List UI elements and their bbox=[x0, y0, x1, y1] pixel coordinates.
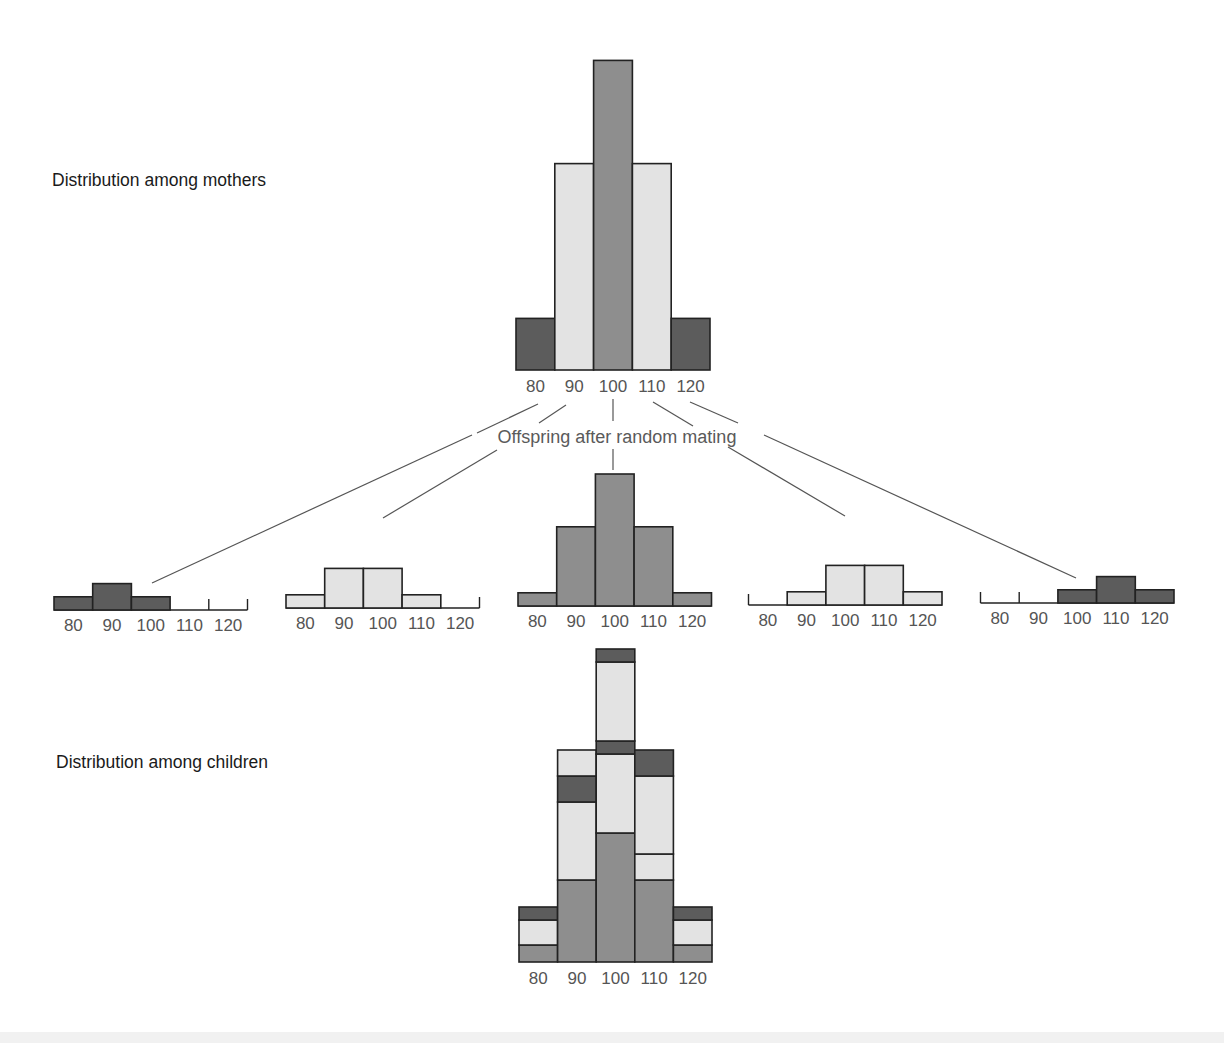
tick-label: 120 bbox=[908, 611, 936, 630]
bar-80 bbox=[518, 593, 557, 606]
bar-110 bbox=[632, 164, 671, 370]
bar-90 bbox=[787, 592, 826, 605]
offspring-histogram-100: 8090100110120 bbox=[518, 474, 712, 631]
inheritance-diagram: Offspring after random mating 8090100110… bbox=[0, 0, 1224, 1043]
segment-120-1 bbox=[673, 920, 712, 945]
connector-110-upper bbox=[653, 402, 693, 426]
bar-90 bbox=[93, 584, 132, 610]
segment-90-2 bbox=[558, 776, 597, 802]
tick-label: 120 bbox=[1140, 609, 1168, 628]
bar-110 bbox=[402, 595, 441, 608]
bar-110 bbox=[634, 527, 673, 606]
segment-90-1 bbox=[558, 802, 597, 880]
tick-label: 110 bbox=[408, 614, 435, 633]
tick-label: 90 bbox=[797, 611, 816, 630]
bar-120 bbox=[903, 592, 942, 605]
bar-120 bbox=[671, 318, 710, 370]
tick-label: 120 bbox=[676, 377, 704, 396]
tick-label: 100 bbox=[599, 377, 627, 396]
bar-110 bbox=[865, 565, 904, 605]
segment-120-2 bbox=[673, 907, 712, 920]
offspring-histogram-80: 8090100110120 bbox=[54, 584, 248, 635]
bar-100 bbox=[826, 565, 865, 605]
tick-label: 110 bbox=[176, 616, 203, 635]
connector-120-lower bbox=[764, 435, 1076, 578]
segment-100-0 bbox=[596, 833, 635, 962]
segment-100-4 bbox=[596, 649, 635, 662]
bar-100 bbox=[363, 568, 402, 608]
segment-100-1 bbox=[596, 754, 635, 833]
tick-label: 110 bbox=[638, 377, 665, 396]
bar-90 bbox=[555, 164, 594, 370]
tick-label: 90 bbox=[335, 614, 354, 633]
tick-label: 120 bbox=[678, 612, 706, 631]
offspring-histogram-90: 8090100110120 bbox=[286, 568, 480, 633]
offspring-label: Offspring after random mating bbox=[498, 427, 737, 447]
tick-label: 100 bbox=[137, 616, 165, 635]
connector-120-upper bbox=[690, 402, 738, 423]
tick-label: 90 bbox=[103, 616, 122, 635]
tick-label: 80 bbox=[990, 609, 1009, 628]
tick-label: 100 bbox=[831, 611, 859, 630]
tick-label: 100 bbox=[1063, 609, 1091, 628]
tick-label: 80 bbox=[758, 611, 777, 630]
tick-label: 100 bbox=[601, 612, 629, 631]
segment-120-0 bbox=[673, 945, 712, 962]
tick-label: 110 bbox=[870, 611, 897, 630]
tick-label: 110 bbox=[1102, 609, 1129, 628]
bar-100 bbox=[594, 60, 633, 370]
tick-label: 80 bbox=[526, 377, 545, 396]
bar-90 bbox=[325, 568, 364, 608]
bar-80 bbox=[516, 318, 555, 370]
bar-80 bbox=[54, 597, 93, 610]
bar-100 bbox=[595, 474, 634, 606]
segment-110-2 bbox=[635, 776, 674, 854]
tick-label: 110 bbox=[641, 969, 668, 988]
tick-label: 80 bbox=[529, 969, 548, 988]
tick-label: 120 bbox=[679, 969, 707, 988]
segment-80-2 bbox=[519, 907, 558, 920]
segment-80-0 bbox=[519, 945, 558, 962]
tick-label: 120 bbox=[446, 614, 474, 633]
bar-120 bbox=[1135, 590, 1174, 603]
segment-90-0 bbox=[558, 880, 597, 962]
segment-110-1 bbox=[635, 854, 674, 880]
tick-label: 90 bbox=[567, 612, 586, 631]
tick-label: 90 bbox=[567, 969, 586, 988]
segment-90-3 bbox=[558, 750, 597, 776]
connector-90-lower bbox=[383, 450, 497, 518]
connector-80-lower bbox=[152, 435, 472, 583]
segment-110-3 bbox=[635, 750, 674, 776]
connector-110-lower bbox=[728, 447, 845, 516]
tick-label: 100 bbox=[601, 969, 629, 988]
mothers-histogram: 8090100110120 bbox=[516, 60, 710, 396]
offspring-histogram-110: 8090100110120 bbox=[749, 565, 943, 630]
tick-label: 80 bbox=[64, 616, 83, 635]
tick-label: 90 bbox=[565, 377, 584, 396]
segment-110-0 bbox=[635, 880, 674, 962]
tick-label: 80 bbox=[528, 612, 547, 631]
segment-100-3 bbox=[596, 662, 635, 741]
tick-label: 80 bbox=[296, 614, 315, 633]
offspring-histogram-120: 8090100110120 bbox=[981, 577, 1175, 628]
segment-100-2 bbox=[596, 741, 635, 754]
segment-80-1 bbox=[519, 920, 558, 945]
bar-110 bbox=[1097, 577, 1136, 603]
tick-label: 90 bbox=[1029, 609, 1048, 628]
bottom-band bbox=[0, 1032, 1224, 1043]
tick-label: 110 bbox=[640, 612, 667, 631]
bar-80 bbox=[286, 595, 325, 608]
tick-label: 100 bbox=[369, 614, 397, 633]
bar-90 bbox=[557, 527, 596, 606]
bar-120 bbox=[673, 593, 712, 606]
bar-100 bbox=[1058, 590, 1097, 603]
bar-100 bbox=[131, 597, 170, 610]
children-stacked-histogram: 8090100110120 bbox=[519, 649, 712, 988]
tick-label: 120 bbox=[214, 616, 242, 635]
connector-90-upper bbox=[539, 405, 566, 423]
